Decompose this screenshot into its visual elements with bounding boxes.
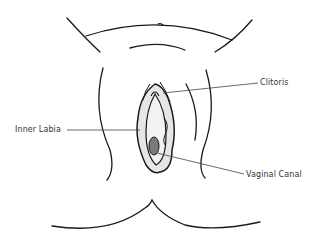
label-clitoris: Clitoris [260,78,289,87]
label-inner-labia: Inner Labia [15,125,61,134]
anatomy-diagram: Clitoris Inner Labia Vaginal Canal [0,0,322,252]
vaginal-opening-shape [149,137,159,155]
label-vaginal-canal: Vaginal Canal [246,170,302,179]
